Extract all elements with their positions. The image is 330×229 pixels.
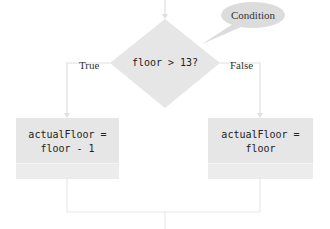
decision-condition: floor > 13? [112,56,218,70]
false-branch-label: False [230,59,253,71]
entry-arrowhead-icon [162,14,168,19]
true-action-box: actualFloor =floor - 1 [16,118,119,179]
connector-lines [0,0,330,229]
flowchart: Condition floor > 13? True False actualF… [0,0,330,229]
box-footer-band [16,163,119,179]
merge-connector [67,179,260,212]
box-footer-band [208,163,313,179]
callout-tail [202,22,248,44]
false-action-line-2: floor [221,142,299,156]
false-action-line-1: actualFloor = [221,128,299,142]
false-action-box: actualFloor =floor [208,118,313,179]
true-action-line-1: actualFloor = [28,128,106,142]
false-action-code: actualFloor =floor [221,128,299,156]
true-branch-label: True [79,59,99,71]
callout-label: Condition [222,9,284,21]
true-action-line-2: floor - 1 [28,142,106,156]
true-action-code: actualFloor =floor - 1 [28,128,106,156]
